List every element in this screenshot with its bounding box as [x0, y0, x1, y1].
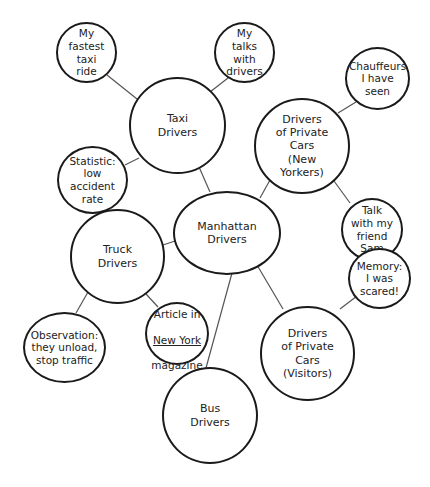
node-label: Drivers of Private Cars (Visitors) [281, 327, 333, 380]
edge-privateny-manhattan [260, 180, 270, 198]
center-label: Manhattan Drivers [197, 220, 256, 246]
node-label: Statistic: low accident rate [69, 155, 115, 205]
node-private-cars-new-yorkers: Drivers of Private Cars (New Yorkers) [254, 98, 350, 194]
node-label: Article in New York magazine [151, 296, 202, 372]
node-bus-drivers: Bus Drivers [162, 367, 258, 464]
node-taxi-drivers: Taxi Drivers [129, 77, 226, 174]
node-label: Drivers of Private Cars (New Yorkers) [276, 113, 328, 179]
node-fastest-taxi-ride: My fastest taxi ride [56, 22, 117, 83]
node-private-cars-visitors: Drivers of Private Cars (Visitors) [260, 306, 355, 401]
node-label: My talks with drivers [226, 27, 262, 77]
edge-taxi-fastest [107, 75, 137, 99]
edge-manhattan-privatevisitors [257, 265, 283, 309]
node-memory-scared: Memory: I was scared! [348, 248, 411, 309]
node-label: Observation: they unload, stop traffic [31, 329, 98, 367]
edge-privateny-sam [334, 181, 350, 203]
node-talks-with-drivers: My talks with drivers [214, 22, 275, 83]
node-truck-drivers: Truck Drivers [70, 209, 165, 304]
cluster-diagram: My fastest taxi ride My talks with drive… [0, 0, 430, 487]
node-article-new-york-magazine: Article in New York magazine [145, 302, 209, 365]
edge-taxi-talks [210, 78, 228, 92]
article-line1: Article in [154, 308, 201, 320]
node-label: Talk with my friend Sam [351, 204, 393, 254]
node-label: My fastest taxi ride [69, 27, 105, 77]
node-observation: Observation: they unload, stop traffic [23, 312, 106, 383]
edge-privateny-chauffeurs [338, 102, 356, 113]
node-label: Bus Drivers [190, 402, 230, 428]
node-manhattan-drivers: Manhattan Drivers [173, 191, 281, 275]
edge-truck-observation [76, 292, 88, 313]
edge-taxi-manhattan [199, 167, 210, 192]
edge-taxi-statistic [125, 158, 139, 165]
node-label: Chauffeurs I have seen [349, 60, 406, 98]
node-chauffeurs: Chauffeurs I have seen [345, 47, 410, 110]
edge-manhattan-bus [206, 273, 232, 368]
node-label: Truck Drivers [98, 243, 138, 269]
node-label: Memory: I was scared! [357, 260, 402, 298]
node-statistic-low-accident-rate: Statistic: low accident rate [57, 146, 128, 214]
article-title: New York [153, 334, 201, 346]
node-label: Taxi Drivers [158, 112, 198, 138]
